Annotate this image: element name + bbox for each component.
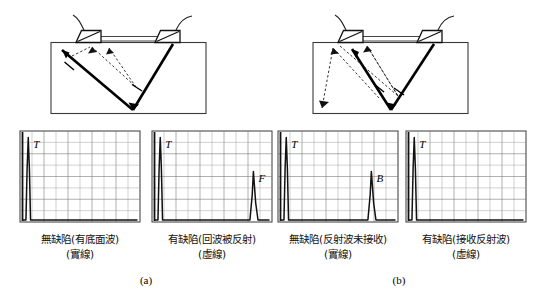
probe-a-left-cable	[73, 15, 84, 30]
caption-3-line1: 無缺陷(反射波未接收)	[289, 233, 387, 245]
subfigure-b-specimen	[313, 15, 468, 114]
subfigure-label-b: (b)	[393, 274, 406, 287]
panel-a-right-peak-label-F: F	[257, 172, 265, 184]
captions-layer: 無缺陷(有底面波) (實線) 有缺陷(回波被反射) (虛線) 無缺陷(反射波未接…	[41, 233, 510, 287]
panel-b-left: TB	[278, 131, 398, 222]
caption-4-line1: 有缺陷(接收反射波)	[422, 233, 510, 245]
probe-a-right-cable	[176, 16, 192, 30]
probe-a-right	[155, 16, 192, 43]
caption-4-line2: (虛線)	[452, 248, 480, 260]
subfigure-a-specimen	[51, 15, 206, 114]
panel-b-right: T	[406, 131, 526, 222]
panel-b-left-peak-label-T: T	[291, 138, 298, 150]
test-block-a	[51, 43, 206, 114]
ultrasonic-inspection-figure: TTFTBT 無缺陷(有底面波) (實線) 有缺陷(回波被反射) (虛線) 無缺…	[0, 0, 536, 303]
panel-a-left-peak-label-T: T	[33, 138, 40, 150]
panel-a-right-peak-label-T: T	[165, 138, 172, 150]
probe-a-left	[73, 15, 101, 43]
caption-1-line1: 無缺陷(有底面波)	[41, 233, 119, 245]
probe-b-right-cable	[438, 16, 454, 30]
caption-3-line2: (實線)	[324, 248, 352, 260]
probe-b-left-cable	[335, 15, 346, 30]
panel-b-right-peak-label-T: T	[419, 138, 426, 150]
subfigure-label-a: (a)	[140, 274, 153, 287]
caption-1-line2: (實線)	[66, 248, 94, 260]
panel-b-left-peak-label-B: B	[376, 172, 383, 184]
panel-a-right: TF	[152, 131, 272, 222]
probe-bridge-b	[357, 37, 423, 42]
probe-bridge-a	[95, 37, 161, 42]
panel-a-left: T	[20, 131, 140, 222]
probe-b-left	[335, 15, 363, 43]
caption-2-line2: (虛線)	[198, 248, 226, 260]
caption-2-line1: 有缺陷(回波被反射)	[168, 233, 256, 245]
probe-b-right	[417, 16, 454, 43]
scan-panels-layer: TTFTBT	[20, 131, 526, 222]
figure-root: TTFTBT 無缺陷(有底面波) (實線) 有缺陷(回波被反射) (虛線) 無缺…	[0, 0, 536, 303]
